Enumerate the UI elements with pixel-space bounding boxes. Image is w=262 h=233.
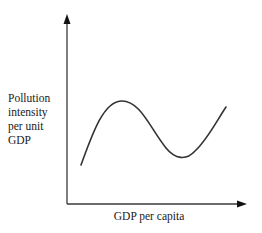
pollution-curve [81,101,226,165]
y-axis-label-line-1: Pollution [8,91,68,105]
x-axis-arrow-icon [237,201,247,208]
y-axis-label-line-2: intensity [8,105,68,119]
x-axis-label: GDP per capita [0,210,262,222]
y-axis-label: Pollution intensity per unit GDP [8,91,68,147]
y-axis-label-line-4: GDP [8,133,68,147]
y-axis-arrow-icon [64,14,71,24]
y-axis-label-line-3: per unit [8,119,68,133]
